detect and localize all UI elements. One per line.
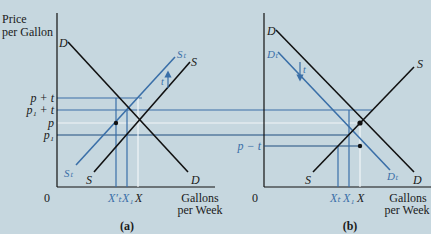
demand-label-b: D [267, 25, 276, 37]
qty-label-x1-b: X₁ [343, 192, 355, 204]
supply-bottom-label-a: S [86, 174, 92, 186]
qty-label-xt-b: Xₜ [330, 192, 341, 204]
taxed-demand-bottom-label: Dₜ [387, 170, 398, 182]
taxed-supply-label-a: Sₜ [177, 48, 186, 60]
taxed-supply-curve [76, 57, 175, 165]
caption-a: (a) [112, 220, 142, 232]
origin-label-a: 0 [44, 192, 50, 204]
qty-label-x-b: X [357, 192, 364, 204]
taxed-demand-label-b: Dₜ [267, 48, 278, 60]
price-label-p-minus-t: p − t [215, 140, 261, 152]
y-axis-title-line1: Price [2, 13, 27, 25]
qty-label-xt-prime: X′ₜ [108, 192, 122, 204]
equilibrium-point-b [357, 120, 362, 125]
qty-label-x1-a: X₁ [122, 192, 134, 204]
demand-label-a: D [59, 37, 68, 49]
taxed-supply-bottom-label: Sₜ [64, 167, 73, 179]
demand-curve-b [276, 30, 414, 172]
demand-bottom-label-a: D [191, 174, 200, 186]
origin-label-b: 0 [252, 192, 258, 204]
panel-a [57, 13, 215, 187]
qty-label-x-a: X [135, 192, 142, 204]
panel-b [264, 13, 431, 187]
demand-bottom-label-b: D [413, 174, 422, 186]
point-x-p-minus-t [358, 144, 362, 148]
taxed-demand-curve [278, 52, 390, 170]
supply-curve-a [94, 62, 190, 172]
supply-top-label-b: S [417, 58, 423, 70]
shift-label-b: t [303, 64, 306, 76]
y-axis-title-line2: per Gallon [2, 26, 53, 38]
x-axis-title-b-line2: per Week [381, 204, 431, 216]
caption-b: (b) [335, 220, 365, 232]
supply-bottom-label-b: S [305, 174, 311, 186]
supply-label-a: S [191, 56, 197, 68]
x-axis-title-a-line2: per Week [175, 204, 225, 216]
price-label-p1: p₁ [10, 129, 54, 141]
price-label-p1-plus-t: p₁ + t [10, 104, 54, 116]
point-xt-prime-p [114, 121, 118, 125]
shift-label-a: t [161, 76, 164, 88]
